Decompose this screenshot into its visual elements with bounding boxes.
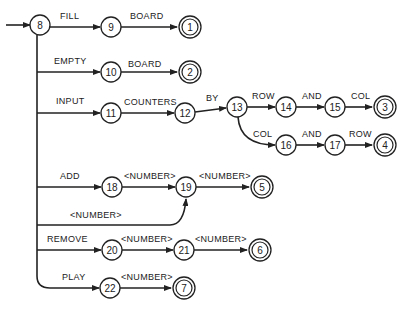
- node-label: 18: [106, 182, 118, 193]
- edge-label: PLAY: [62, 272, 86, 282]
- node-label: 10: [105, 67, 117, 78]
- node-label: 12: [179, 108, 191, 119]
- edge-label: COL: [253, 129, 272, 139]
- node-label: 19: [180, 182, 192, 193]
- final-state-node: 3: [374, 96, 396, 118]
- node-label: 13: [231, 102, 243, 113]
- node-label: 21: [178, 245, 190, 256]
- node-label: 6: [257, 245, 263, 256]
- node-label: 8: [37, 20, 43, 31]
- edge-label: INPUT: [56, 96, 85, 106]
- edge-label: COL: [351, 91, 370, 101]
- final-state-node: 4: [374, 134, 396, 156]
- node-label: 11: [106, 108, 117, 119]
- edge-label: <NUMBER>: [124, 171, 176, 181]
- state-node: 9: [101, 17, 121, 37]
- edge-label: BOARD: [130, 11, 164, 21]
- node-label: 16: [280, 140, 292, 151]
- state-node: 17: [325, 135, 345, 155]
- final-state-node: 7: [173, 277, 195, 299]
- node-label: 20: [106, 245, 118, 256]
- edge-label: EMPTY: [54, 56, 87, 66]
- node-label: 15: [329, 102, 341, 113]
- node-label: 3: [382, 102, 388, 113]
- state-node: 15: [325, 97, 345, 117]
- state-node: 19: [176, 177, 196, 197]
- edge-label: ROW: [349, 129, 372, 139]
- state-node: 21: [174, 240, 194, 260]
- final-state-node: 1: [179, 16, 201, 38]
- edge-label: <NUMBER>: [121, 272, 173, 282]
- edge-label: <NUMBER>: [199, 171, 251, 181]
- edge-label: BY: [206, 93, 219, 103]
- state-node: 13: [227, 97, 247, 117]
- state-node: 22: [100, 278, 120, 298]
- edge-12-13-by: [195, 108, 226, 112]
- edge-labels: FILL BOARD EMPTY BOARD INPUT COUNTERS BY…: [47, 11, 372, 282]
- edge-label: REMOVE: [47, 234, 88, 244]
- node-label: 1: [187, 22, 193, 33]
- edge-label: BOARD: [128, 59, 162, 69]
- edge-label: COUNTERS: [124, 97, 177, 107]
- node-label: 4: [382, 140, 388, 151]
- node-label: 17: [329, 140, 341, 151]
- edge-label: <NUMBER>: [121, 234, 173, 244]
- final-state-node: 6: [249, 239, 271, 261]
- edge-label: AND: [302, 91, 322, 101]
- node-label: 2: [187, 67, 193, 78]
- state-node: 14: [276, 97, 296, 117]
- state-node: 12: [175, 103, 195, 123]
- edge-label: ROW: [252, 91, 275, 101]
- node-label: 7: [181, 283, 187, 294]
- state-node: 11: [101, 103, 121, 123]
- node-label: 5: [259, 182, 265, 193]
- state-node: 18: [102, 177, 122, 197]
- edge-label: ADD: [60, 171, 80, 181]
- state-diagram: FILL BOARD EMPTY BOARD INPUT COUNTERS BY…: [0, 0, 407, 317]
- state-node: 16: [276, 135, 296, 155]
- state-node: 8: [30, 15, 50, 35]
- state-node: 20: [102, 240, 122, 260]
- edge-label: FILL: [60, 11, 79, 21]
- final-state-node: 2: [179, 61, 201, 83]
- node-label: 14: [280, 102, 292, 113]
- edge-label: AND: [302, 129, 322, 139]
- final-state-node: 5: [251, 176, 273, 198]
- node-label: 9: [108, 22, 114, 33]
- state-node: 10: [101, 62, 121, 82]
- node-label: 22: [104, 283, 116, 294]
- edge-label: <NUMBER>: [70, 210, 122, 220]
- edge-label: <NUMBER>: [195, 234, 247, 244]
